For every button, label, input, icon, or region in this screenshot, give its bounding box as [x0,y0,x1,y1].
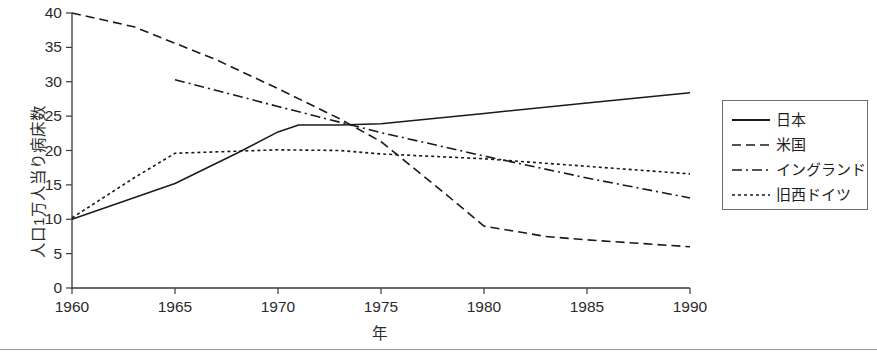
legend-item-label: 米国 [776,137,806,152]
legend-line-swatch [731,114,771,126]
x-tick-label: 1975 [349,298,413,316]
x-tick-label: 1960 [40,298,104,316]
legend-item-3: イングランド [723,157,867,182]
y-tick-label: 35 [26,38,62,56]
legend-item-2: 米国 [723,132,867,157]
x-tick-label: 1980 [452,298,516,316]
y-tick-label: 30 [26,73,62,91]
legend-line-swatch [731,139,771,151]
chart-series-line-3 [175,80,690,198]
x-tick-label: 1965 [143,298,207,316]
chart-series-group [72,13,690,247]
y-tick-label: 40 [26,4,62,22]
legend-line-swatch [731,189,771,201]
y-tick-label: 0 [26,279,62,297]
legend-item-1: 日本 [723,107,867,132]
x-tick-label: 1990 [658,298,722,316]
legend-item-label: 日本 [776,112,806,127]
legend-line-swatch [731,164,771,176]
chart-series-line-1 [72,93,690,220]
page-bottom-rule [0,349,877,350]
y-axis-title: 人口1万人当り病床数 [26,105,48,258]
legend-item-4: 旧西ドイツ [723,182,867,207]
chart-series-line-2 [72,13,690,247]
chart-figure: 4035302520151050 19601965197019751980198… [0,0,877,354]
chart-series-line-4 [72,150,690,218]
legend-item-label: イングランド [776,162,866,177]
x-axis-title: 年 [0,321,760,343]
chart-axes [72,13,690,288]
x-tick-label: 1985 [555,298,619,316]
x-tick-label: 1970 [246,298,310,316]
legend-item-label: 旧西ドイツ [776,187,851,202]
chart-legend: 日本米国イングランド旧西ドイツ [722,100,868,210]
